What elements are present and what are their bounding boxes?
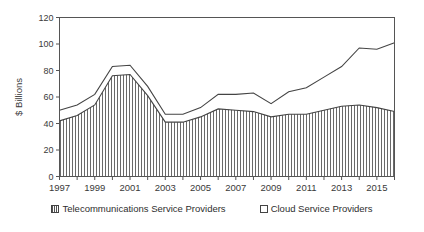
x-tick-label: 2007: [225, 182, 246, 193]
legend-label-telecom: Telecommunications Service Providers: [62, 203, 225, 214]
y-tick-label: 20: [43, 145, 53, 155]
y-axis-ticks: 020406080100120: [38, 13, 59, 182]
chart-canvas: 020406080100120 199719992001200320052007…: [0, 0, 424, 232]
x-axis-ticks: 1997199920012003200520072009201120132015: [49, 177, 395, 193]
x-tick-label: 2005: [190, 182, 211, 193]
y-tick-label: 40: [43, 119, 53, 129]
y-tick-label: 0: [48, 172, 53, 182]
y-tick-label: 60: [43, 92, 53, 102]
x-tick-label: 2013: [331, 182, 352, 193]
x-tick-label: 1999: [84, 182, 105, 193]
y-tick-label: 100: [38, 39, 53, 49]
legend-item-telecom: Telecommunications Service Providers: [51, 203, 225, 214]
chart-legend: Telecommunications Service Providers Clo…: [0, 203, 424, 214]
x-tick-label: 2009: [261, 182, 282, 193]
hatched-square-icon: [51, 205, 59, 213]
legend-item-cloud: Cloud Service Providers: [260, 203, 373, 214]
x-tick-label: 2001: [119, 182, 140, 193]
x-tick-label: 2003: [155, 182, 176, 193]
y-tick-label: 120: [38, 13, 53, 23]
open-square-icon: [260, 205, 268, 213]
y-tick-label: 80: [43, 66, 53, 76]
stacked-area-chart: 020406080100120 199719992001200320052007…: [0, 0, 424, 232]
y-axis-title: $ Billions: [13, 78, 24, 116]
legend-label-cloud: Cloud Service Providers: [271, 203, 373, 214]
x-tick-label: 2015: [366, 182, 387, 193]
x-tick-label: 2011: [296, 182, 316, 193]
x-tick-label: 1997: [49, 182, 70, 193]
